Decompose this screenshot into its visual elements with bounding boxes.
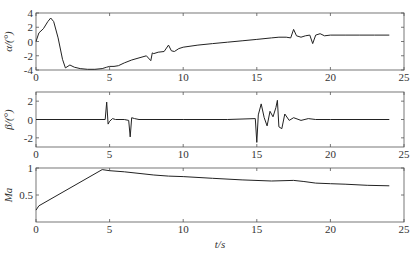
x-tick-label: 0: [33, 223, 39, 235]
series-line-alpha: [36, 18, 389, 69]
x-tick-label: 20: [325, 223, 337, 235]
y-tick-label: 2: [28, 21, 34, 33]
y-tick-label: -4: [24, 64, 34, 76]
x-tick-label: 0: [33, 148, 39, 160]
x-tick-label: 20: [325, 71, 337, 83]
x-tick-label: 25: [399, 223, 411, 235]
y-tick-label: 4: [28, 7, 34, 19]
y-tick-label: 0: [28, 36, 34, 48]
x-axis-label: t/s: [215, 238, 225, 250]
plot-frame-alpha: [36, 13, 404, 70]
x-tick-label: 10: [178, 223, 190, 235]
y-tick-label: -2: [24, 132, 33, 144]
x-tick-label: 5: [107, 148, 113, 160]
x-tick-label: 5: [107, 71, 113, 83]
y-tick-label: 0.5: [19, 189, 33, 201]
x-tick-label: 10: [178, 148, 190, 160]
x-tick-label: 10: [178, 71, 190, 83]
y-axis-label-beta: β/(°): [2, 109, 15, 131]
y-tick-label: 1: [28, 162, 34, 174]
y-axis-label-alpha: α/(°): [2, 31, 15, 52]
y-tick-label: 2: [28, 95, 34, 107]
y-tick-label: -2: [24, 50, 33, 62]
chart-figure: 0510152025-4-2024α/(°)0510152025-202β/(°…: [0, 0, 417, 260]
series-line-beta: [36, 100, 389, 142]
x-tick-label: 25: [399, 148, 411, 160]
x-tick-label: 20: [325, 148, 337, 160]
x-tick-label: 25: [399, 71, 411, 83]
x-tick-label: 15: [251, 223, 263, 235]
y-axis-label-ma: Ma: [2, 187, 14, 203]
x-tick-label: 15: [251, 148, 263, 160]
series-line-Ma: [36, 170, 389, 211]
x-tick-label: 0: [33, 71, 39, 83]
x-tick-label: 5: [107, 223, 113, 235]
x-tick-label: 15: [251, 71, 263, 83]
y-tick-label: 0: [28, 114, 34, 126]
